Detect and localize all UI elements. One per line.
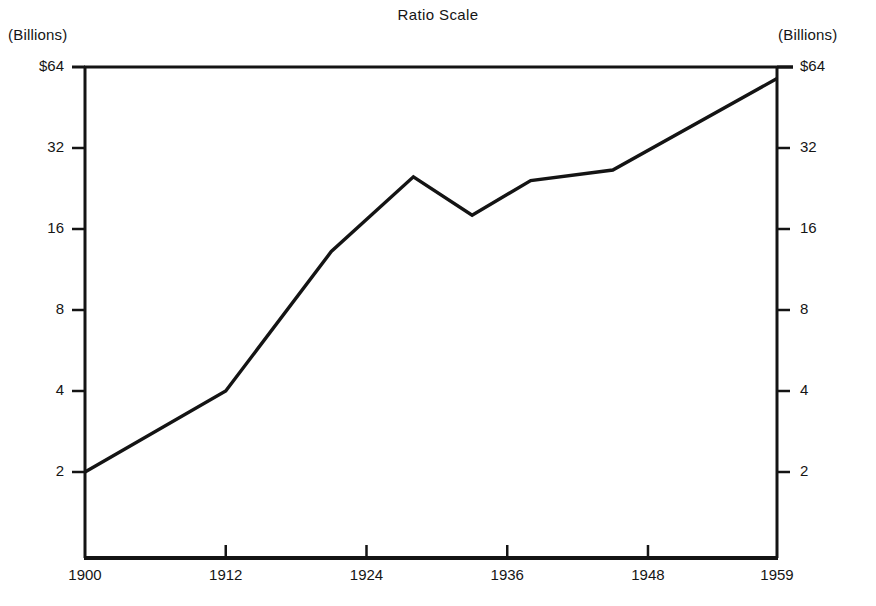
y-tick-label-right-5: 2 xyxy=(800,462,808,479)
x-tick-label-5: 1959 xyxy=(742,566,812,583)
y-tick-label-right-4: 4 xyxy=(800,381,808,398)
y-tick-label-left-4: 4 xyxy=(6,381,64,398)
y-tick-label-right-2: 16 xyxy=(800,219,817,236)
x-tick-label-2: 1924 xyxy=(331,566,401,583)
x-tick-label-3: 1936 xyxy=(472,566,542,583)
y-tick-label-left-5: 2 xyxy=(6,462,64,479)
y-tick-label-left-2: 16 xyxy=(6,219,64,236)
chart-figure: Ratio Scale (Billions) (Billions) $64321… xyxy=(0,0,876,606)
data-line-series-1 xyxy=(85,79,777,473)
y-tick-label-left-1: 32 xyxy=(6,138,64,155)
axis-frame xyxy=(84,67,793,558)
plot-area xyxy=(0,0,876,606)
y-tick-label-right-3: 8 xyxy=(800,300,808,317)
y-tick-label-left-0: $64 xyxy=(6,57,64,74)
y-tick-label-left-3: 8 xyxy=(6,300,64,317)
y-tick-label-right-0: $64 xyxy=(800,57,825,74)
data-series-group xyxy=(85,79,777,473)
axis-ticks xyxy=(72,67,793,558)
x-tick-label-4: 1948 xyxy=(613,566,683,583)
x-tick-label-0: 1900 xyxy=(50,566,120,583)
y-tick-label-right-1: 32 xyxy=(800,138,817,155)
x-tick-label-1: 1912 xyxy=(191,566,261,583)
